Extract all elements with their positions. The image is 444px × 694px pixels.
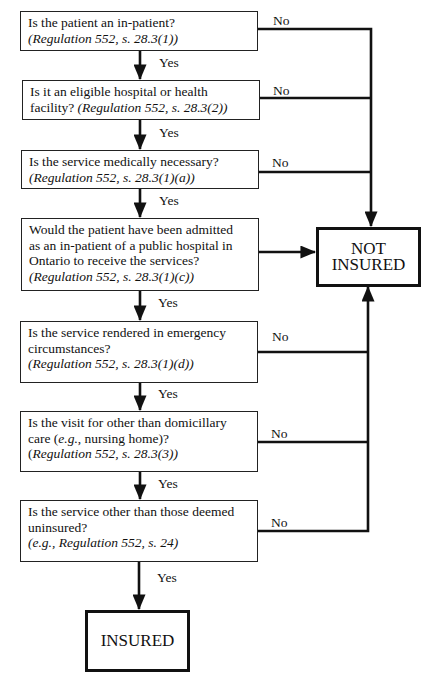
question-text: Is the visit for other than domicillary (28, 415, 227, 430)
question-text: Is the service other than those deemed (28, 504, 234, 519)
yes-label: Yes (157, 570, 177, 585)
outcome-label: INSURED (101, 633, 175, 649)
question-text: Is the service rendered in emergency (28, 325, 226, 340)
question-medically-necessary: Is the service medically necessary? (Reg… (21, 150, 259, 189)
question-emergency: Is the service rendered in emergency cir… (20, 321, 258, 383)
outcome-label: INSURED (332, 257, 406, 273)
yes-label: Yes (159, 55, 179, 70)
outcome-not-insured: NOT INSURED (316, 227, 421, 287)
question-text: facility? (30, 100, 78, 115)
no-label: No (271, 426, 288, 441)
question-text: as an in-patient of a public hospital in (29, 238, 233, 253)
question-inpatient: Is the patient an in-patient? (Regulatio… (20, 11, 258, 51)
yes-label: Yes (159, 193, 179, 208)
question-text: uninsured? (28, 520, 87, 535)
regulation-reference: (Regulation 552, s. 28.3(1)(a)) (29, 170, 195, 185)
eg-abbrev: e.g. (58, 431, 78, 446)
no-label: No (273, 13, 290, 28)
no-line-1 (257, 29, 371, 226)
question-text: Is it an eligible hospital or health (30, 84, 208, 99)
no-label: No (272, 155, 289, 170)
no-label: No (271, 515, 288, 530)
regulation-reference: (Regulation 552, s. 28.3(1)) (28, 31, 178, 46)
question-text: circumstances? (28, 341, 110, 356)
question-would-be-admitted: Would the patient have been admitted as … (21, 218, 259, 291)
question-text: care ( (28, 431, 58, 446)
regulation-reference: (Regulation 552, s. 28.3(1)(d)) (28, 356, 194, 371)
question-text: Is the service medically necessary? (29, 154, 219, 169)
yes-label: Yes (159, 125, 179, 140)
regulation-reference: Regulation 552, s. 28.3(3)) (33, 446, 178, 461)
question-eligible-facility: Is it an eligible hospital or health fac… (22, 80, 260, 120)
question-text: Is the patient an in-patient? (28, 15, 175, 30)
yes-label: Yes (158, 386, 178, 401)
no-line-7 (257, 287, 368, 531)
question-text: Would the patient have been admitted (29, 222, 233, 237)
regulation-reference: (e.g., Regulation 552, s. 24) (28, 535, 178, 550)
question-deemed-uninsured: Is the service other than those deemed u… (20, 500, 258, 562)
question-domiciliary-care: Is the visit for other than domicillary … (20, 411, 258, 472)
outcome-insured: INSURED (85, 610, 190, 672)
no-label: No (273, 83, 290, 98)
regulation-reference: (Regulation 552, s. 28.3(1)(c)) (29, 269, 194, 284)
question-text: Ontario to receive the services? (29, 253, 199, 268)
question-text: , nursing home)? (78, 431, 169, 446)
no-label: No (272, 329, 289, 344)
yes-label: Yes (158, 295, 178, 310)
regulation-reference: (Regulation 552, s. 28.3(2)) (78, 100, 228, 115)
yes-label: Yes (158, 476, 178, 491)
